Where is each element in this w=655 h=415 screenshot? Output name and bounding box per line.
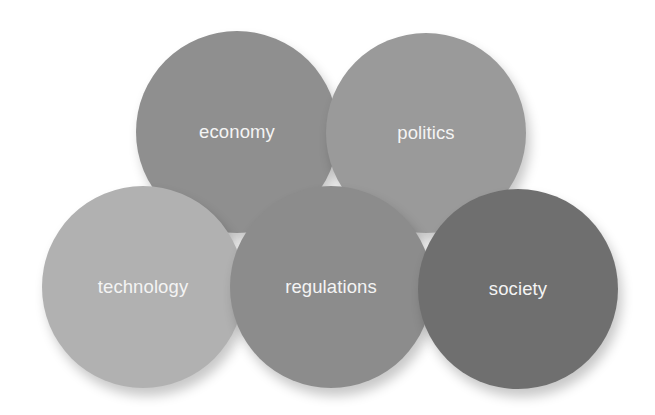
circle-label-politics: politics (397, 122, 454, 144)
circle-label-economy: economy (199, 121, 275, 143)
circle-society: society (418, 189, 618, 389)
factors-diagram: economy politics technology regulations … (0, 0, 655, 415)
circle-regulations: regulations (230, 186, 432, 388)
circle-label-regulations: regulations (285, 276, 377, 298)
circle-label-technology: technology (98, 276, 188, 298)
circle-label-society: society (489, 278, 547, 300)
circle-technology: technology (42, 186, 244, 388)
